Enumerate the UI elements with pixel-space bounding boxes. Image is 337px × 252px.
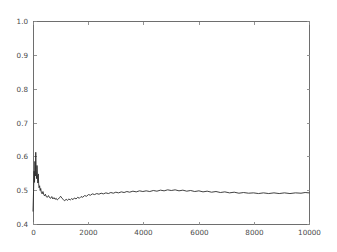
y-tick-label: 0.6 bbox=[17, 152, 29, 161]
y-tick-label: 0.4 bbox=[17, 220, 29, 229]
x-tick-label: 6000 bbox=[190, 228, 209, 237]
y-tick-label: 0.8 bbox=[17, 85, 29, 94]
x-tick-label: 0 bbox=[31, 228, 36, 237]
y-tick-label: 1.0 bbox=[17, 17, 29, 26]
x-tick-label: 10000 bbox=[298, 228, 321, 237]
x-tick-label: 8000 bbox=[245, 228, 264, 237]
chart-figure: 02000400060008000100000.40.50.60.70.80.9… bbox=[0, 0, 337, 252]
axes: 02000400060008000100000.40.50.60.70.80.9… bbox=[17, 17, 322, 236]
x-tick-label: 4000 bbox=[134, 228, 153, 237]
y-tick-label: 0.5 bbox=[17, 186, 28, 195]
line-chart: 02000400060008000100000.40.50.60.70.80.9… bbox=[0, 0, 337, 252]
y-tick-label: 0.7 bbox=[17, 119, 28, 128]
x-tick-label: 2000 bbox=[79, 228, 98, 237]
y-tick-label: 0.9 bbox=[17, 51, 29, 60]
